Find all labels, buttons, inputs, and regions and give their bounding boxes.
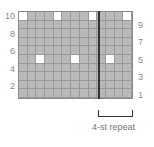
chart-cell [106, 21, 115, 30]
chart-cell [45, 21, 54, 30]
chart-cell [106, 46, 115, 55]
chart-cell [115, 38, 124, 47]
chart-cell [19, 89, 28, 98]
chart-cell [28, 38, 37, 47]
chart-cell [89, 21, 98, 30]
chart-cell [62, 21, 71, 30]
chart-cell [62, 81, 71, 90]
row-label-3: 3 [138, 73, 143, 82]
chart-cell [36, 29, 45, 38]
chart-cell [36, 64, 45, 73]
row-label-4: 4 [2, 65, 15, 74]
chart-cell [71, 89, 80, 98]
chart-cell [71, 46, 80, 55]
chart-cell [19, 81, 28, 90]
chart-cell [71, 29, 80, 38]
row-label-8: 8 [2, 30, 15, 39]
chart-cell [123, 12, 132, 21]
chart-cell [80, 29, 89, 38]
chart-cell [89, 81, 98, 90]
chart-cell [106, 72, 115, 81]
chart-cell [115, 29, 124, 38]
row-label-9: 9 [138, 21, 143, 30]
chart-cell [115, 89, 124, 98]
row-label-10: 10 [2, 12, 15, 21]
chart-cell [19, 72, 28, 81]
chart-cell [45, 89, 54, 98]
chart-cell [89, 38, 98, 47]
chart-cell [36, 46, 45, 55]
chart-cell [89, 12, 98, 21]
chart-cell [36, 81, 45, 90]
chart-cell [71, 38, 80, 47]
chart-cell [62, 46, 71, 55]
chart-cell [19, 64, 28, 73]
chart-cell [71, 81, 80, 90]
row-label-6: 6 [2, 47, 15, 56]
chart-cell [123, 29, 132, 38]
chart-cell [54, 55, 63, 64]
chart-cell [54, 38, 63, 47]
chart-cell [106, 38, 115, 47]
chart-grid [19, 12, 132, 98]
chart-cell [123, 64, 132, 73]
chart-cell [115, 64, 124, 73]
chart-cell [62, 55, 71, 64]
chart-cell [80, 38, 89, 47]
chart-cell [45, 12, 54, 21]
chart-cell [115, 46, 124, 55]
chart-cell [54, 89, 63, 98]
chart-cell [62, 64, 71, 73]
chart-cell [71, 21, 80, 30]
chart-cell [28, 12, 37, 21]
chart-cell [45, 55, 54, 64]
chart-cell [80, 12, 89, 21]
chart-cell [45, 81, 54, 90]
chart-cell [115, 81, 124, 90]
chart-cell [36, 21, 45, 30]
chart-cell [54, 21, 63, 30]
chart-cell [115, 21, 124, 30]
chart-cell [80, 46, 89, 55]
chart-cell [54, 72, 63, 81]
chart-cell [28, 89, 37, 98]
chart-cell [80, 21, 89, 30]
chart-cell [36, 38, 45, 47]
chart-cell [54, 29, 63, 38]
chart-cell [89, 29, 98, 38]
chart-cell [89, 89, 98, 98]
chart-cell [54, 46, 63, 55]
chart-cell [106, 89, 115, 98]
row-label-1: 1 [138, 91, 143, 100]
chart-cell [106, 81, 115, 90]
repeat-boundary-line [98, 11, 100, 99]
row-label-7: 7 [138, 38, 143, 47]
chart-cell [54, 12, 63, 21]
chart-cell [106, 12, 115, 21]
chart-cell [28, 72, 37, 81]
chart-cell [80, 55, 89, 64]
chart-cell [80, 81, 89, 90]
repeat-label: 4-st repeat [92, 122, 135, 132]
row-label-2: 2 [2, 82, 15, 91]
chart-cell [62, 72, 71, 81]
chart-cell [19, 29, 28, 38]
chart-cell [123, 38, 132, 47]
chart-cell [62, 29, 71, 38]
chart-cell [62, 89, 71, 98]
row-label-5: 5 [138, 56, 143, 65]
chart-cell [54, 64, 63, 73]
chart-cell [71, 55, 80, 64]
chart-cell [115, 55, 124, 64]
chart-cell [89, 64, 98, 73]
chart-cell [45, 38, 54, 47]
repeat-bracket [98, 110, 133, 117]
chart-cell [28, 21, 37, 30]
chart-cell [71, 12, 80, 21]
chart-cell [36, 72, 45, 81]
chart-cell [28, 55, 37, 64]
chart-cell [36, 12, 45, 21]
chart-cell [80, 89, 89, 98]
chart-cell [123, 89, 132, 98]
chart-cell [89, 46, 98, 55]
